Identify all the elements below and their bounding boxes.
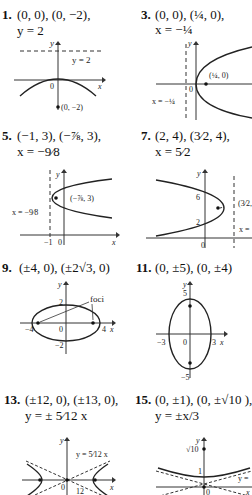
svg-text:2: 2 bbox=[196, 218, 200, 227]
svg-text:x: x bbox=[97, 82, 102, 91]
graph-problem-11: y 5 −3 0 3 x −5 bbox=[126, 250, 252, 380]
graph-problem-13: y y = 5⁄12 x 0 x 12 bbox=[0, 380, 126, 495]
svg-text:−4: −4 bbox=[25, 325, 34, 334]
svg-text:1: 1 bbox=[198, 467, 202, 476]
svg-text:0: 0 bbox=[59, 325, 63, 334]
svg-text:y: y bbox=[187, 39, 192, 48]
svg-text:y: y bbox=[195, 436, 200, 445]
svg-text:y: y bbox=[196, 169, 201, 178]
svg-text:x: x bbox=[109, 483, 114, 492]
svg-text:−2: −2 bbox=[55, 341, 64, 350]
svg-text:y: y bbox=[57, 280, 62, 289]
graph-problem-5: y (−⅞, 3) x = −9⁄8 −1 0 x bbox=[0, 120, 126, 250]
svg-text:(3⁄2,: (3⁄2, bbox=[238, 199, 252, 208]
svg-text:x: x bbox=[245, 488, 250, 495]
svg-text:(¼, 0): (¼, 0) bbox=[209, 71, 229, 80]
svg-text:(−⅞, 3): (−⅞, 3) bbox=[70, 194, 94, 203]
svg-text:5: 5 bbox=[183, 289, 187, 298]
svg-text:4: 4 bbox=[102, 325, 106, 334]
graph-problem-3: y 0 (¼, 0) x = −¼ bbox=[126, 0, 252, 120]
svg-text:0: 0 bbox=[58, 238, 62, 247]
svg-text:y: y bbox=[59, 436, 64, 445]
svg-text:0: 0 bbox=[189, 85, 193, 94]
svg-text:y = 2: y = 2 bbox=[72, 55, 91, 65]
graph-problem-15: y √10 1 y = 0 x bbox=[126, 380, 252, 495]
svg-text:0: 0 bbox=[206, 488, 210, 495]
svg-text:0: 0 bbox=[61, 483, 65, 492]
svg-text:−3: −3 bbox=[157, 338, 166, 347]
svg-text:y = 5⁄12 x: y = 5⁄12 x bbox=[76, 450, 108, 459]
svg-text:x = −¼: x = −¼ bbox=[152, 97, 175, 106]
svg-text:y =: y = bbox=[238, 474, 249, 483]
svg-text:y: y bbox=[49, 38, 54, 48]
graph-problem-7: y 6 2 0 (3⁄2, x = bbox=[126, 120, 252, 250]
svg-text:x: x bbox=[111, 238, 116, 247]
svg-text:foci: foci bbox=[90, 294, 104, 304]
svg-text:−1: −1 bbox=[44, 238, 53, 247]
svg-text:2: 2 bbox=[59, 298, 63, 307]
svg-text:x: x bbox=[219, 338, 224, 347]
svg-text:√10: √10 bbox=[186, 445, 198, 454]
svg-text:(0, −2): (0, −2) bbox=[61, 103, 83, 112]
graph-problem-1: y y = 2 0 x (0, −2) bbox=[0, 0, 126, 120]
svg-text:0: 0 bbox=[201, 241, 205, 250]
svg-text:6: 6 bbox=[196, 193, 200, 202]
graph-problem-9: y foci 2 −4 0 4 x −2 bbox=[0, 250, 126, 380]
svg-text:y: y bbox=[182, 280, 187, 289]
svg-text:0: 0 bbox=[50, 82, 54, 91]
svg-text:x =: x = bbox=[239, 225, 250, 234]
svg-text:x = −9⁄8: x = −9⁄8 bbox=[12, 208, 38, 217]
svg-text:3: 3 bbox=[212, 338, 216, 347]
svg-text:0: 0 bbox=[183, 338, 187, 347]
svg-text:y: y bbox=[55, 170, 60, 179]
svg-text:12: 12 bbox=[76, 487, 84, 495]
svg-text:x: x bbox=[109, 325, 114, 334]
